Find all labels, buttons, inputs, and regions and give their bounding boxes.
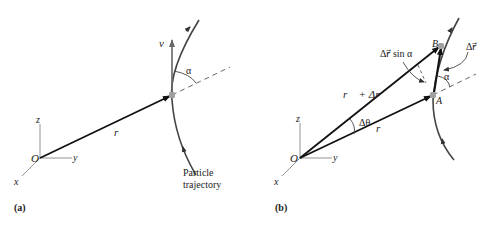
delta-r-sin-alpha-label: Δr⃗ sin α — [380, 48, 413, 59]
panel-a: z y x O v⃗ α r⃗ Particle trajectory (a) — [13, 20, 230, 214]
x-axis-label: x — [13, 176, 19, 187]
y-axis-label: y — [332, 152, 338, 163]
z-axis-label: z — [35, 114, 40, 125]
origin-label: O — [290, 152, 298, 164]
trajectory-label-line2: trajectory — [183, 179, 221, 190]
position-vector-label: r⃗ — [114, 126, 127, 138]
point-b — [438, 43, 444, 49]
trajectory-direction-arrow-icon — [183, 147, 184, 151]
r-extension-dashed-line — [172, 67, 230, 95]
delta-r-leader-arrow — [444, 52, 468, 70]
delta-r-label: Δr⃗ — [466, 41, 477, 52]
position-vector-label: r⃗ — [376, 122, 389, 134]
z-axis-label: z — [295, 113, 300, 124]
point-b-label: B — [432, 38, 438, 49]
kinematics-diagram: z y x O v⃗ α r⃗ Particle trajectory (a) — [0, 0, 484, 227]
panel-b-caption: (b) — [275, 202, 287, 214]
position-vector-arrow — [40, 96, 170, 158]
point-a-label: A — [435, 95, 443, 106]
delta-theta-label: Δθ — [359, 117, 370, 128]
alpha-angle-arc — [174, 71, 196, 83]
sum-vector-label: r⃗ + Δr⃗ — [343, 88, 388, 100]
velocity-vector-label: v⃗ — [159, 37, 172, 49]
r-extension-dashed-line — [433, 74, 476, 95]
trajectory-direction-arrow-icon — [442, 139, 443, 143]
origin-label: O — [31, 152, 39, 164]
alpha-angle-label: α — [444, 71, 450, 82]
coordinate-axes-a — [22, 124, 72, 176]
alpha-angle-label: α — [186, 65, 192, 76]
x-axis-label: x — [273, 176, 279, 187]
delta-r-vector-arrow — [434, 48, 441, 93]
particle-trajectory-curve — [172, 20, 199, 175]
trajectory-label-line1: Particle — [183, 167, 214, 178]
panel-b: z y x O r⃗ r⃗ + Δr⃗ Δθ α Δr⃗ sin α Δr⃗ — [273, 18, 477, 214]
panel-a-caption: (a) — [14, 202, 26, 214]
trajectory-direction-arrow-icon — [186, 27, 190, 31]
coordinate-axes-b — [282, 123, 332, 176]
y-axis-label: y — [72, 152, 78, 163]
particle-point — [169, 92, 175, 98]
